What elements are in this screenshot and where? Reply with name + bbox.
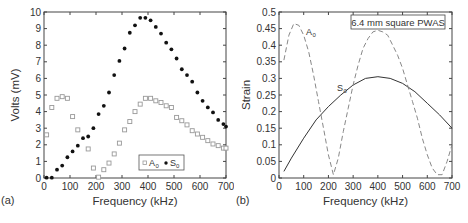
s0-curve [284,77,452,172]
a0-data-point [185,123,189,127]
x-tick-label: 400 [370,181,387,192]
s0-data-point [123,47,127,51]
y-tick-label: 10 [30,7,42,18]
a0-data-point [55,96,59,100]
y-tick-label: 0.35 [257,56,277,67]
a0-data-point [159,100,163,104]
panel-label-b: (b) [236,194,249,206]
y-tick-label: 4 [35,106,41,117]
s0-data-point [144,16,148,20]
s0-data-point [211,111,215,115]
a0-data-point [117,141,121,145]
a0-data-point [71,115,75,119]
s0-data-point [154,25,158,29]
s0-data-point [138,16,142,20]
a0-data-point [133,110,137,114]
a0-data-point [180,119,184,123]
y-tick-label: 0.5 [262,7,276,18]
s0-data-point [196,91,200,95]
x-tick-label: 600 [419,181,436,192]
a0-data-point [60,95,64,99]
s0-data-point [50,176,54,180]
y-tick-label: 0.3 [262,73,276,84]
a0-curve-label-sub: 0 [313,32,317,38]
a0-data-point [169,105,173,109]
a0-data-point [97,175,101,179]
a0-data-point [190,129,194,133]
s0-data-point [60,164,64,168]
plot-frame [279,12,452,178]
a0-data-point [102,168,106,172]
annotation-text: 6.4 mm square PWAS [351,17,445,28]
y-tick-label: 3 [35,123,41,134]
x-tick-label: 500 [166,181,183,192]
figure: 0100200300400500600700012345678910Freque… [0,0,468,223]
s0-data-point [76,144,80,148]
y-tick-label: 2 [35,139,41,150]
x-tick-label: 100 [295,181,312,192]
s0-data-point [86,135,90,139]
s0-data-point [102,104,106,108]
a0-data-point [164,104,168,108]
x-tick-label: 200 [88,181,105,192]
x-axis-label: Frequency (kHz) [323,195,408,207]
x-tick-label: 300 [345,181,362,192]
s0-data-point [66,155,70,159]
s0-data-point [71,150,75,154]
x-tick-label: 200 [320,181,337,192]
a0-curve [284,24,452,175]
x-tick-label: 600 [192,181,209,192]
y-tick-label: 0.4 [262,40,276,51]
y-tick-label: 7 [35,56,41,67]
a0-data-point [50,105,54,109]
s0-data-point [107,91,111,95]
y-tick-label: 6 [35,73,41,84]
x-tick-label: 100 [62,181,79,192]
y-tick-label: 8 [35,40,41,51]
x-axis-label: Frequency (kHz) [93,195,178,207]
a0-curve-label: A [306,27,312,37]
s0-curve-label: S [337,83,343,93]
a0-data-point [86,147,90,151]
y-tick-label: 0.45 [257,23,277,34]
y-tick-label: 0.1 [262,139,276,150]
a0-data-point [128,120,132,124]
s0-data-point [175,57,179,61]
legend: A0S0 [139,155,184,170]
y-tick-label: 0.15 [257,123,277,134]
x-tick-label: 0 [41,181,47,192]
s0-data-point [216,118,220,122]
s0-curve-label-sub: 0 [344,88,348,94]
a0-data-point [91,166,95,170]
s0-data-point [128,31,132,35]
a0-data-point [149,96,153,100]
a0-data-point [206,139,210,143]
a0-data-point [143,96,147,100]
legend-a0-label: A [149,158,155,168]
panel-label-a: (a) [1,194,14,206]
s0-data-point [190,80,194,84]
s0-data-point [201,99,205,103]
a0-data-point [65,96,69,100]
a0-data-point [154,99,158,103]
y-tick-label: 0 [35,173,41,184]
plot-frame [44,12,226,178]
s0-data-point [185,73,189,77]
chart-b-strain-vs-frequency: 010020030040050060070000.050.10.150.20.2… [234,0,468,223]
x-tick-label: 500 [394,181,411,192]
s0-data-point [97,112,101,116]
s0-data-point [180,67,184,71]
s0-data-point [159,32,163,36]
s0-data-point [92,126,96,130]
y-tick-label: 0 [270,173,276,184]
a0-data-point [175,115,179,119]
s0-data-point [45,176,49,180]
s0-data-point [133,23,137,27]
s0-data-point [170,47,174,51]
s0-data-point [118,59,122,63]
s0-data-point [149,18,153,22]
s0-data-point [55,168,59,172]
s0-data-point [224,125,228,129]
a0-data-point [201,135,205,139]
a0-data-point [112,152,116,156]
